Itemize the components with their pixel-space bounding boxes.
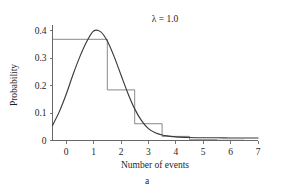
y-tick-label: 0.3 [35, 53, 47, 63]
poisson-curve [53, 30, 259, 138]
x-tick-label: 1 [91, 147, 96, 157]
x-tick-label: 4 [173, 147, 178, 157]
x-tick-label: 0 [64, 147, 69, 157]
chart-canvas: λ = 1.0 00.10.20.30.4 01234567 Number of… [0, 0, 284, 189]
panel-caption: a [145, 176, 150, 186]
chart-title: λ = 1.0 [152, 14, 179, 24]
y-tick-label: 0 [42, 136, 47, 146]
x-axis-label: Number of events [121, 160, 189, 170]
x-tick-label: 5 [201, 147, 206, 157]
y-axis-label: Probability [9, 64, 19, 106]
y-axis-ticks: 00.10.20.30.4 [35, 26, 53, 146]
x-tick-label: 2 [119, 147, 124, 157]
histogram-outline [53, 39, 259, 140]
y-tick-label: 0.2 [35, 81, 47, 91]
x-tick-label: 3 [146, 147, 151, 157]
figure-panel: λ = 1.0 00.10.20.30.4 01234567 Number of… [0, 0, 284, 189]
x-tick-label: 6 [228, 147, 233, 157]
y-tick-label: 0.1 [35, 108, 47, 118]
y-tick-label: 0.4 [35, 26, 47, 36]
x-axis-ticks: 01234567 [64, 141, 261, 157]
x-tick-label: 7 [256, 147, 261, 157]
histogram-bars [53, 39, 259, 140]
distribution-curve [53, 30, 259, 138]
